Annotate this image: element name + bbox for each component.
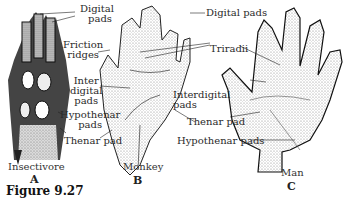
label-text: pads <box>86 14 114 24</box>
caption-man: Man <box>281 167 304 178</box>
label-text: pads <box>70 96 102 106</box>
panel-letter-b: B <box>133 174 142 187</box>
label-text: pads <box>173 100 231 110</box>
label-inter-digital-pads: Inter digital pads <box>70 76 102 106</box>
human-hand-drawing <box>222 8 342 172</box>
label-hypothenar-pads-c: Hypothenar pads <box>177 136 264 146</box>
label-thenar-pad-a: Thenar pad <box>64 136 122 146</box>
figure-number: Figure 9.27 <box>6 184 84 198</box>
label-digital-pads-a: Digital pads <box>80 4 114 24</box>
panel-letter-c: C <box>287 180 296 193</box>
caption-monkey: Monkey <box>123 161 163 172</box>
label-text: pads <box>60 120 120 130</box>
label-digital-pads-c: Digital pads <box>206 8 267 18</box>
insectivore-foot-drawing <box>8 12 70 165</box>
caption-insectivore: Insectivore <box>8 161 65 172</box>
label-thenar-pad-c: Thenar pad <box>187 117 245 127</box>
label-text: ridges <box>63 50 103 60</box>
label-friction-ridges: Friction ridges <box>63 40 103 60</box>
label-interdigital-pads: Interdigital pads <box>173 90 231 110</box>
label-hypothenar-pads-a: Hypothenar pads <box>60 110 120 130</box>
label-triradii: Triradii <box>210 44 248 54</box>
